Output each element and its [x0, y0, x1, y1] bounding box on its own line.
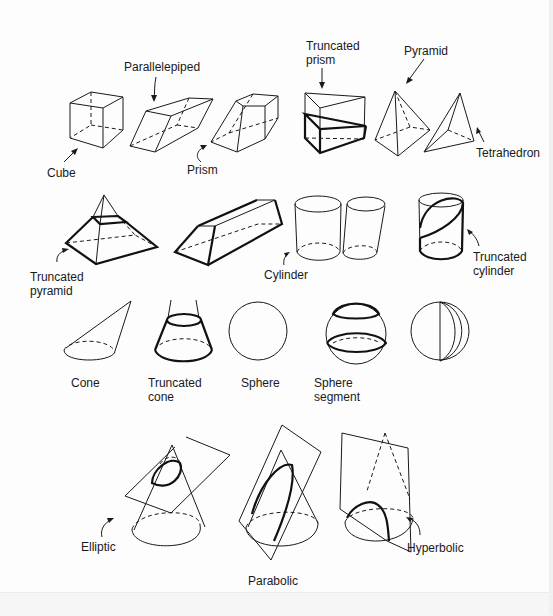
- label-parallelepiped: Parallelepiped: [124, 60, 200, 74]
- cylinder-shape: [295, 196, 341, 260]
- label-truncated-pyramid: Truncated pyramid: [30, 270, 84, 298]
- label-truncated-prism: Truncated prism: [306, 39, 360, 67]
- parabolic-section-shape: [239, 425, 321, 560]
- label-elliptic: Elliptic: [81, 540, 116, 554]
- label-sphere: Sphere: [241, 376, 280, 390]
- label-hyperbolic: Hyperbolic: [407, 541, 464, 555]
- sphere-segment-shape: [326, 304, 386, 365]
- label-cylinder: Cylinder: [264, 268, 308, 282]
- tetrahedron-shape: [424, 93, 474, 152]
- cone-shape: [64, 301, 131, 360]
- hyperbolic-section-shape: [340, 433, 413, 552]
- label-truncated-cylinder: Truncated cylinder: [473, 250, 527, 278]
- label-cube: Cube: [47, 166, 76, 180]
- row1-arrows: [64, 59, 484, 162]
- truncated-cylinder-shape: [419, 193, 463, 259]
- cube-shape: [70, 92, 123, 148]
- page-right-edge: [549, 0, 553, 615]
- label-cone: Cone: [71, 376, 100, 390]
- label-prism: Prism: [187, 163, 218, 177]
- truncated-cone-shape: [155, 300, 212, 361]
- label-parabolic: Parabolic: [248, 574, 298, 588]
- parallelepiped-shape: [130, 98, 213, 152]
- sphere-meridian-shape: [411, 302, 469, 361]
- label-truncated-cone: Truncated cone: [148, 376, 202, 404]
- row4-arrows: [101, 517, 420, 537]
- truncated-prism-wedge-shape: [175, 200, 282, 265]
- oblique-cylinder-shape: [343, 197, 385, 259]
- sphere-shape: [229, 302, 287, 360]
- label-sphere-segment: Sphere segment: [314, 376, 360, 404]
- page-bottom-margin: [0, 592, 553, 616]
- row2-arrows: [57, 229, 479, 265]
- pyramid-shape: [375, 91, 430, 156]
- elliptic-section-shape: [125, 437, 230, 546]
- prism-shape: [211, 94, 278, 152]
- label-pyramid: Pyramid: [404, 44, 448, 58]
- truncated-prism-shape: [305, 93, 366, 153]
- label-tetrahedron: Tetrahedron: [476, 146, 540, 160]
- truncated-pyramid-shape: [66, 195, 157, 264]
